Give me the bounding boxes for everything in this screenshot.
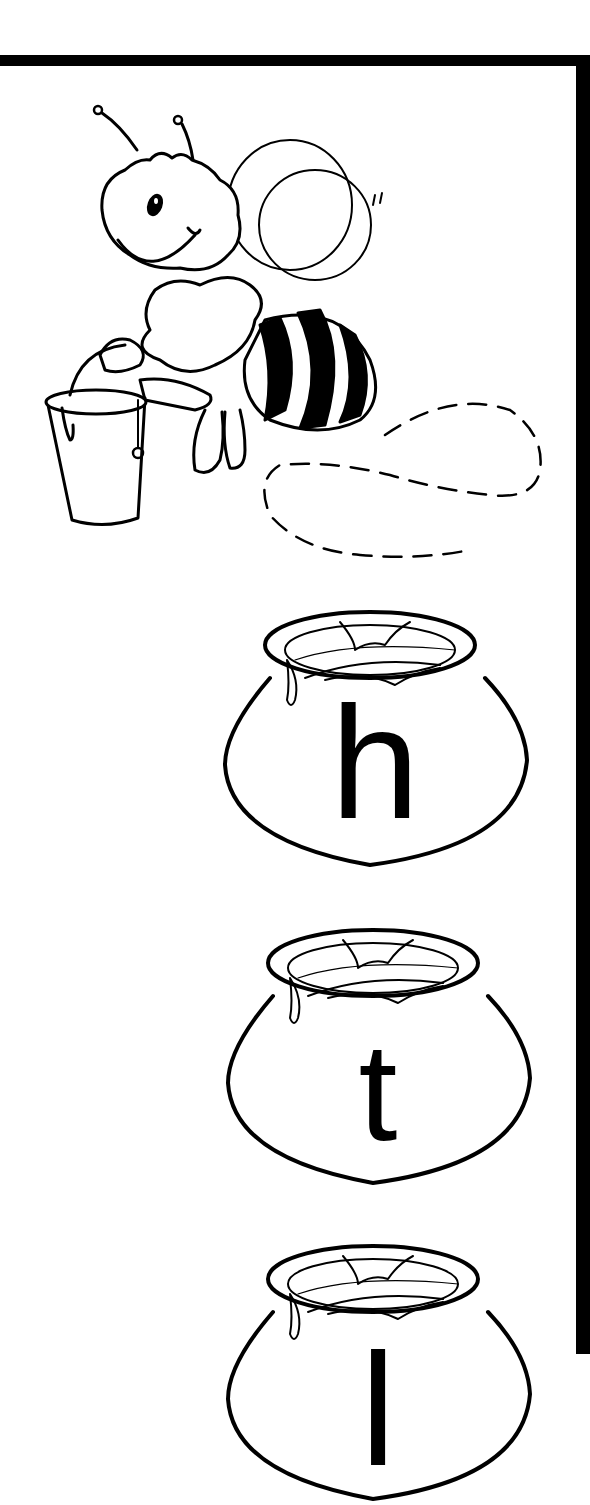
bee-illustration — [0, 0, 590, 580]
pot-letter-t: t — [218, 1022, 538, 1162]
pot-letter-partial: l — [218, 1330, 538, 1490]
pot-letter-h: h — [215, 683, 535, 843]
